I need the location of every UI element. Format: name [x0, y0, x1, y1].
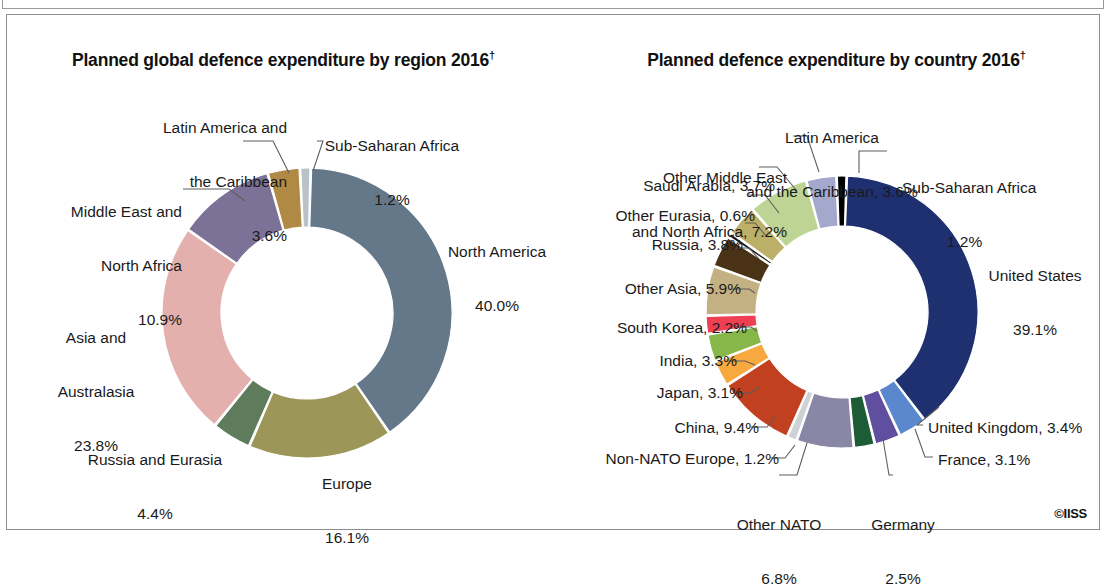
slice-label-germany-right: Germany 2.5%: [843, 480, 963, 588]
slice-label-russia-right: Russia, 3.8%: [563, 236, 743, 254]
slice-label-saudi-arabia-right: Saudi Arabia, 3.7%: [567, 177, 775, 195]
copyright-iiss: ©IISS: [1054, 506, 1087, 521]
leader-germany-right: [883, 439, 893, 475]
slice-label-united-kingdom-right: United Kingdom, 3.4%: [928, 419, 1106, 437]
slice-label-china-right: China, 9.4%: [567, 419, 759, 437]
slice-label-europe-left: Europe 16.1%: [287, 439, 407, 583]
slice-label-south-korea-right: South Korea, 2.2%: [553, 319, 747, 337]
slice-label-other-asia-right: Other Asia, 5.9%: [559, 280, 741, 298]
slice-label-other-eurasia-right: Other Eurasia, 0.6%: [559, 207, 755, 225]
slice-label-other-nato-right: Other NATO 6.8%: [709, 480, 849, 588]
slice-label-russia-eurasia-left: Russia and Eurasia 4.4%: [55, 415, 255, 559]
slice-label-united-states-right: United States 39.1%: [965, 231, 1105, 375]
slice-label-other-mena-right: Other Middle East and North Africa, 7.2%: [567, 133, 787, 277]
slice-label-non-nato-europe-right: Non-NATO Europe, 1.2%: [543, 450, 779, 468]
slice-label-india-right: India, 3.3%: [567, 352, 737, 370]
figure-frame: Planned global defence expenditure by re…: [6, 14, 1100, 530]
page-top-strip: [2, 0, 1104, 9]
slice-label-france-right: France, 3.1%: [938, 451, 1106, 469]
slice-label-north-america-left: North America 40.0%: [427, 207, 567, 351]
slice-label-japan-right: Japan, 3.1%: [563, 384, 743, 402]
